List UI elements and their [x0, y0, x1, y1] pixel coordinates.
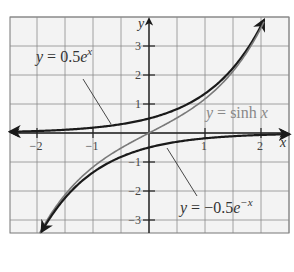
- y-tick-label: 2: [135, 68, 141, 82]
- y-axis-label: y: [136, 16, 145, 31]
- y-tick-label: −2: [128, 184, 141, 198]
- x-tick-label: 1: [201, 139, 207, 153]
- label-y-sinh-x: y = sinh x: [204, 104, 268, 122]
- y-tick-label: −3: [128, 213, 141, 227]
- hyperbolic-function-chart: −2−112321−1−2−3 y = 0.5exy = sinh xy = −…: [0, 0, 294, 272]
- label-y-0-5e-x: y = 0.5ex: [34, 45, 92, 66]
- y-tick-label: 1: [135, 97, 141, 111]
- x-axis-label: x: [279, 135, 287, 150]
- x-tick-label: −2: [30, 139, 43, 153]
- x-tick-label: −1: [86, 139, 99, 153]
- x-tick-label: 2: [257, 139, 263, 153]
- y-tick-label: −1: [128, 155, 141, 169]
- y-tick-label: 3: [135, 39, 141, 53]
